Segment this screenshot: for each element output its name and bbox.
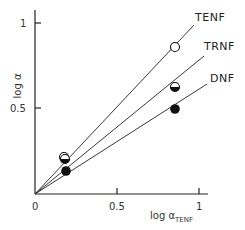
point-trnf-high [171, 83, 180, 92]
y-tick-label-0.5: 0.5 [10, 103, 26, 114]
point-dnf-low [61, 166, 71, 176]
x-axis-label-main: log α [150, 210, 175, 221]
x-tick-label-0.5: 0.5 [109, 201, 125, 212]
line-label-tenf: TENF [194, 11, 225, 24]
x-tick-label-0: 0 [32, 201, 38, 212]
fit-line-dnf [35, 84, 207, 194]
fit-line-trnf [35, 56, 204, 194]
y-axis-label: log α [12, 73, 23, 98]
x-tick-label-1: 1 [196, 201, 202, 212]
x-axis-label-sub: TENF [174, 216, 193, 224]
line-label-trnf: TRNF [203, 40, 235, 53]
point-dnf-high [170, 104, 180, 114]
fit-line-tenf [35, 25, 194, 194]
point-tenf-high [171, 43, 180, 52]
x-axis-label: log αTENF [150, 210, 193, 224]
point-trnf-low [61, 155, 70, 164]
y-tick-label-1: 1 [20, 18, 26, 29]
log-alpha-chart: 1 0.5 0 0.5 1 log α log αTENF TENF TRNF … [0, 0, 245, 230]
line-label-dnf: DNF [210, 72, 235, 85]
